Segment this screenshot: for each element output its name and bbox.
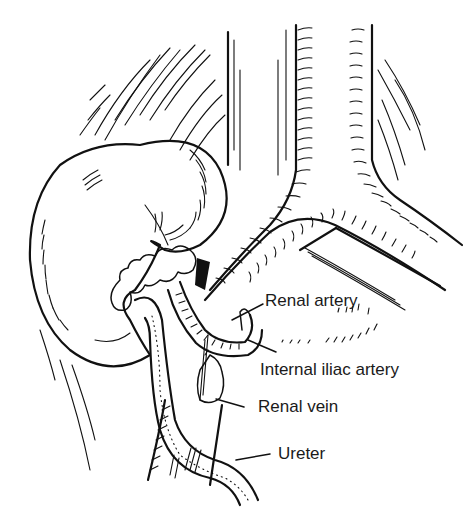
illustration-kidney-transplant: Renal artery Internal iliac artery Renal… [0,0,473,513]
leader-internal-iliac-artery [248,340,276,352]
label-internal-iliac-artery: Internal iliac artery [260,361,399,378]
kidney [30,141,227,366]
leader-lines [216,304,276,460]
leader-ureter [236,454,270,460]
label-renal-artery: Renal artery [265,292,358,309]
lower-vessel [148,335,222,485]
leader-renal-vein [216,399,244,407]
renal-vein-graft [198,350,224,403]
right-vessel [350,25,462,245]
aorta [210,25,312,290]
anatomy-drawing [0,0,473,513]
leader-renal-artery [232,304,263,320]
hilum-shadow [195,258,210,290]
label-renal-vein: Renal vein [258,398,338,415]
label-ureter: Ureter [278,445,325,462]
renal-artery [168,282,262,356]
background-contours [40,330,95,470]
ureter-tube [135,298,258,506]
